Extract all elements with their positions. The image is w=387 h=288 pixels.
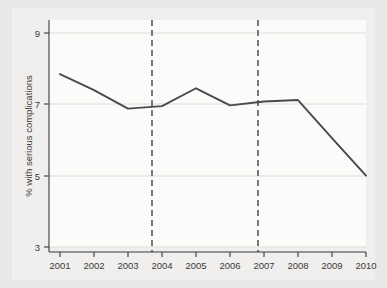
y-tick-label-5: 5 <box>35 171 40 182</box>
x-tick-label-2003: 2003 <box>117 260 138 271</box>
chart-container: 9 7 5 3 % with serious complications 200… <box>0 0 387 288</box>
x-tick-label-2007: 2007 <box>253 260 274 271</box>
x-tick-label-2009: 2009 <box>321 260 342 271</box>
x-tick-label-2001: 2001 <box>49 260 70 271</box>
y-axis-title: % with serious complications <box>23 75 34 197</box>
y-axis-ticks <box>44 33 49 247</box>
x-tick-label-2010: 2010 <box>355 260 376 271</box>
x-tick-label-2005: 2005 <box>185 260 206 271</box>
y-tick-label-7: 7 <box>35 99 40 110</box>
y-tick-label-9: 9 <box>35 28 40 39</box>
x-axis-ticks <box>60 252 366 257</box>
x-axis-tick-labels: 2001 2002 2003 2004 2005 2006 2007 2008 … <box>49 260 376 271</box>
x-tick-label-2006: 2006 <box>219 260 240 271</box>
line-chart: 9 7 5 3 % with serious complications 200… <box>0 0 387 288</box>
x-tick-label-2002: 2002 <box>83 260 104 271</box>
x-tick-label-2008: 2008 <box>287 260 308 271</box>
x-tick-label-2004: 2004 <box>151 260 172 271</box>
plot-area-background <box>49 20 366 247</box>
y-axis-tick-labels: 9 7 5 3 <box>35 28 40 253</box>
y-tick-label-3: 3 <box>35 242 40 253</box>
